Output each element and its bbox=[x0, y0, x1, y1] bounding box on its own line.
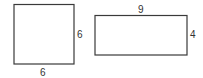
square-side-label-right: 6 bbox=[77, 29, 83, 40]
square-side-label-bottom: 6 bbox=[40, 67, 46, 78]
rectangle-side-label-top: 9 bbox=[138, 4, 144, 15]
square-outline bbox=[14, 5, 74, 65]
rectangle-side-label-right: 4 bbox=[190, 29, 196, 40]
diagram-canvas: 6 6 9 4 bbox=[0, 0, 203, 78]
rectangle-outline bbox=[95, 16, 187, 56]
rectangle-shape: 9 4 bbox=[95, 4, 196, 55]
square-shape: 6 6 bbox=[14, 5, 83, 78]
